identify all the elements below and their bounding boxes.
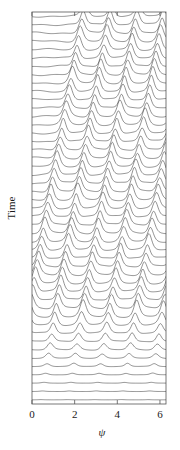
waterfall-trace bbox=[32, 343, 166, 350]
waterfall-plot: 0246 ψ Time bbox=[0, 0, 180, 450]
waterfall-trace bbox=[32, 142, 166, 159]
y-axis-label: Time bbox=[5, 196, 17, 219]
waterfall-trace bbox=[32, 373, 166, 375]
waterfall-trace bbox=[32, 201, 166, 217]
trace-group bbox=[32, 1, 166, 400]
waterfall-trace bbox=[32, 117, 166, 134]
waterfall-trace bbox=[32, 183, 166, 201]
x-axis-label: ψ bbox=[99, 426, 106, 438]
waterfall-trace bbox=[32, 18, 166, 34]
waterfall-trace bbox=[32, 108, 166, 126]
waterfall-trace bbox=[32, 24, 166, 42]
waterfall-trace bbox=[32, 251, 166, 267]
waterfall-trace bbox=[32, 259, 166, 276]
waterfall-trace bbox=[32, 333, 166, 342]
waterfall-trace bbox=[32, 267, 166, 284]
waterfall-trace bbox=[32, 167, 166, 183]
waterfall-trace bbox=[32, 135, 166, 150]
waterfall-trace bbox=[32, 363, 166, 366]
waterfall-trace bbox=[32, 1, 166, 18]
waterfall-trace bbox=[32, 66, 166, 84]
figure-canvas: 0246 ψ Time bbox=[0, 0, 180, 450]
waterfall-trace bbox=[32, 382, 166, 383]
waterfall-trace bbox=[32, 44, 166, 59]
waterfall-trace bbox=[32, 93, 166, 108]
waterfall-trace bbox=[32, 293, 166, 309]
waterfall-trace bbox=[32, 391, 166, 392]
x-tick-label: 0 bbox=[29, 408, 35, 420]
waterfall-trace bbox=[32, 151, 166, 168]
axis-tick-label-group: 0246 bbox=[29, 408, 163, 420]
x-tick-label: 2 bbox=[72, 408, 78, 420]
waterfall-trace bbox=[32, 51, 166, 67]
x-tick-label: 6 bbox=[157, 408, 163, 420]
waterfall-trace bbox=[32, 9, 166, 26]
waterfall-trace bbox=[32, 243, 166, 258]
waterfall-trace bbox=[32, 176, 166, 192]
waterfall-trace bbox=[32, 353, 166, 358]
x-tick-label: 4 bbox=[115, 408, 121, 420]
